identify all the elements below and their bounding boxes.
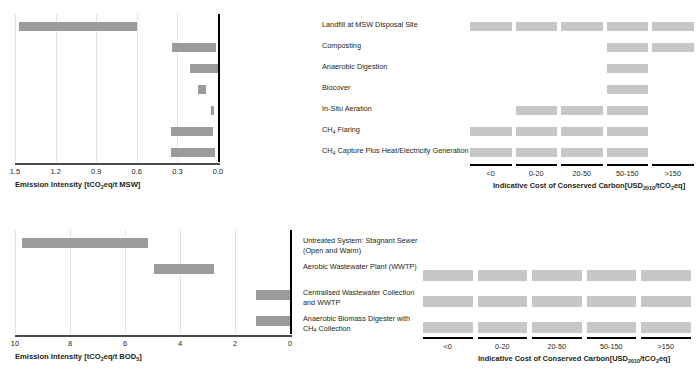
category-label: Anaerobic Biomass Digester withCH4 Colle… xyxy=(303,314,410,334)
bin-label: 50-150 xyxy=(616,169,639,178)
bin-label: 20-50 xyxy=(547,342,566,351)
x-tick-label: 4 xyxy=(178,339,182,348)
cost-cell xyxy=(652,43,694,52)
x-gridline xyxy=(180,230,181,334)
x-gridline xyxy=(96,14,97,162)
cost-cell xyxy=(423,296,473,307)
bar-2 xyxy=(172,43,216,52)
bin-label: 50-150 xyxy=(600,342,623,351)
category-label: Centralised Wastewater Collectionand WWT… xyxy=(303,288,414,307)
category-label: CH4 Capture Plus Heat/Electricity Genera… xyxy=(322,146,469,157)
x-gridline xyxy=(177,14,178,162)
cost-cell xyxy=(607,127,649,136)
bar-4 xyxy=(198,85,206,94)
bar-3 xyxy=(256,290,290,300)
bar-5 xyxy=(211,106,214,115)
bar-4 xyxy=(256,316,290,326)
cost-cell xyxy=(532,322,582,333)
cost-cell xyxy=(470,148,512,157)
msw-figure-panel: 1.51.20.90.60.30.0Emission Intensity [tC… xyxy=(0,0,696,200)
bin-label: >150 xyxy=(665,169,681,178)
bin-label: 20-50 xyxy=(572,169,591,178)
wastewater-cost-chart: <00-2020-5050-150>150Indicative Cost of … xyxy=(418,222,696,378)
wastewater-figure-panel: 1086420Emission Intensity [tCO2eq/t BOD5… xyxy=(0,222,696,378)
x-axis-title: Indicative Cost of Conserved Carbon[USD2… xyxy=(493,181,685,190)
bar-1 xyxy=(22,238,149,248)
cost-cell xyxy=(607,85,649,94)
x-axis-segment xyxy=(470,164,512,166)
x-tick-label: 6 xyxy=(123,339,127,348)
x-tick-label: 1.5 xyxy=(10,167,20,176)
x-axis-line xyxy=(15,335,292,337)
x-tick-label: 0.6 xyxy=(132,167,142,176)
cost-cell xyxy=(532,270,582,281)
x-axis-title: Indicative Cost of Conserved Carbon[USD2… xyxy=(478,354,670,363)
bin-label: <0 xyxy=(487,169,495,178)
cost-cell xyxy=(641,270,691,281)
y-axis-line xyxy=(290,230,292,334)
x-gridline xyxy=(235,230,236,334)
cost-cell xyxy=(470,127,512,136)
bar-3 xyxy=(190,64,218,73)
cost-cell xyxy=(561,106,603,115)
category-label: In-Situ Aeration xyxy=(322,104,372,114)
cost-cell xyxy=(516,22,558,31)
cost-cell xyxy=(470,22,512,31)
x-gridline xyxy=(56,14,57,162)
bin-label: 0-20 xyxy=(495,342,510,351)
x-tick-label: 8 xyxy=(68,339,72,348)
category-label: CH4 Flaring xyxy=(322,125,360,136)
msw-emission-intensity-chart: 1.51.20.90.60.30.0Emission Intensity [tC… xyxy=(0,0,320,200)
cost-cell xyxy=(478,296,528,307)
msw-cost-chart: <00-2020-5050-150>150Indicative Cost of … xyxy=(465,0,696,200)
cost-cell xyxy=(652,22,694,31)
cost-cell xyxy=(516,127,558,136)
x-axis-segment xyxy=(532,337,582,339)
x-gridline xyxy=(137,14,138,162)
x-axis-segment xyxy=(587,337,637,339)
x-gridline xyxy=(15,14,16,162)
category-label: Anaerobic Digestion xyxy=(322,62,387,72)
bar-2 xyxy=(154,264,215,274)
x-tick-label: 0 xyxy=(288,339,292,348)
cost-cell xyxy=(587,270,637,281)
cost-cell xyxy=(607,22,649,31)
cost-cell xyxy=(607,148,649,157)
x-axis-line xyxy=(15,163,220,165)
cost-cell xyxy=(607,106,649,115)
x-axis-segment xyxy=(516,164,558,166)
cost-cell xyxy=(587,322,637,333)
x-tick-label: 10 xyxy=(11,339,19,348)
cost-cell xyxy=(478,322,528,333)
bar-6 xyxy=(171,127,213,136)
bin-label: <0 xyxy=(444,342,452,351)
cost-cell xyxy=(561,127,603,136)
x-axis-segment xyxy=(423,337,473,339)
x-axis-segment xyxy=(478,337,528,339)
cost-cell xyxy=(607,64,649,73)
x-axis-title: Emission Intensity [tCO2eq/t BOD5] xyxy=(15,352,142,361)
bar-7 xyxy=(171,148,216,157)
x-tick-label: 0.0 xyxy=(213,167,223,176)
wastewater-emission-intensity-chart: 1086420Emission Intensity [tCO2eq/t BOD5… xyxy=(0,222,320,378)
category-label: Aerobic Wastewater Plant (WWTP) xyxy=(303,262,417,272)
cost-cell xyxy=(532,296,582,307)
cost-cell xyxy=(478,270,528,281)
category-label: Untreated System: Stagnant Sewer(Open an… xyxy=(303,236,417,255)
y-axis-line xyxy=(218,14,220,162)
x-axis-segment xyxy=(652,164,694,166)
category-label: Landfill at MSW Disposal Site xyxy=(322,20,418,30)
x-tick-label: 2 xyxy=(233,339,237,348)
x-axis-title: Emission Intensity [tCO2eq/t MSW] xyxy=(15,180,140,189)
cost-cell xyxy=(423,270,473,281)
bar-1 xyxy=(19,22,137,31)
cost-cell xyxy=(516,148,558,157)
x-axis-segment xyxy=(641,337,691,339)
x-tick-label: 0.3 xyxy=(172,167,182,176)
cost-cell xyxy=(641,322,691,333)
cost-cell xyxy=(641,296,691,307)
x-gridline xyxy=(15,230,16,334)
bin-label: 0-20 xyxy=(529,169,544,178)
category-label: Biocover xyxy=(322,83,350,93)
cost-cell xyxy=(516,106,558,115)
